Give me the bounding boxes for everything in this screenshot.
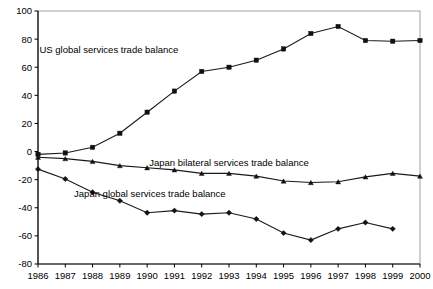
x-axis-tick-label: 1998: [355, 270, 376, 281]
y-axis-tick-label: 40: [21, 90, 32, 101]
data-point-marker-square: [200, 69, 204, 73]
y-axis-tick-label: 0: [27, 146, 32, 157]
data-point-marker-square: [309, 31, 313, 35]
data-point-marker-square: [391, 39, 395, 43]
series-annotation-label: Japan bilateral services trade balance: [149, 157, 308, 168]
services-trade-balance-chart: 100806040200-20-40-60-80 198619871988198…: [0, 0, 433, 289]
data-point-marker-square: [172, 89, 176, 93]
data-point-marker-square: [90, 145, 94, 149]
y-axis-tick-label: 80: [21, 34, 32, 45]
y-axis-tick-label: -80: [18, 258, 32, 269]
y-axis-tick-label: 20: [21, 118, 32, 129]
x-axis-tick-label: 1993: [218, 270, 239, 281]
x-axis-tick-labels: 1986198719881989199019911992199319941995…: [27, 270, 430, 281]
x-axis-tick-label: 1997: [328, 270, 349, 281]
series-annotation-label: US global services trade balance: [39, 44, 178, 55]
data-point-marker-square: [363, 38, 367, 42]
x-axis-tick-label: 1988: [82, 270, 103, 281]
x-axis-tick-label: 1987: [55, 270, 76, 281]
data-point-marker-square: [254, 58, 258, 62]
x-axis-tick-label: 1999: [382, 270, 403, 281]
data-point-marker-square: [145, 110, 149, 114]
x-axis-tick-label: 1986: [27, 270, 48, 281]
x-axis-tick-label: 1991: [164, 270, 185, 281]
x-axis-tick-label: 1994: [246, 270, 267, 281]
x-axis-tick-label: 1996: [300, 270, 321, 281]
x-axis-tick-label: 1992: [191, 270, 212, 281]
data-point-marker-square: [63, 151, 67, 155]
y-axis-tick-label: 100: [16, 5, 32, 16]
x-axis-tick-label: 1990: [137, 270, 158, 281]
x-axis-tick-label: 1995: [273, 270, 294, 281]
data-point-marker-square: [336, 24, 340, 28]
y-axis-tick-label: -20: [18, 174, 32, 185]
data-point-marker-square: [418, 38, 422, 42]
y-axis-tick-label: 60: [21, 62, 32, 73]
y-axis-tick-label: -60: [18, 230, 32, 241]
data-point-marker-square: [281, 47, 285, 51]
chart-canvas: 100806040200-20-40-60-80 198619871988198…: [0, 0, 433, 289]
series-annotation-label: Japan global services trade balance: [74, 188, 226, 199]
data-point-marker-square: [118, 131, 122, 135]
data-point-marker-square: [227, 65, 231, 69]
x-axis-tick-label: 1989: [109, 270, 130, 281]
x-axis-tick-label: 2000: [409, 270, 430, 281]
y-axis-tick-label: -40: [18, 202, 32, 213]
